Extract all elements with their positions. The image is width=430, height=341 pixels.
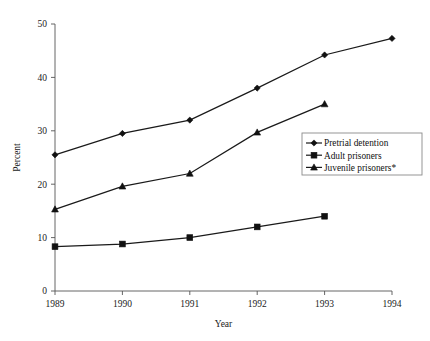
- marker-square: [52, 244, 58, 250]
- marker-square: [311, 152, 317, 158]
- y-tick-label: 30: [38, 126, 48, 136]
- y-axis-title: Percent: [12, 143, 22, 172]
- x-tick-label: 1993: [315, 299, 334, 309]
- x-tick-label: 1989: [46, 299, 65, 309]
- marker-square: [187, 235, 193, 241]
- series-line: [55, 216, 325, 246]
- y-tick-label: 20: [38, 180, 48, 190]
- chart-canvas: 01020304050198919901991199219931994Perce…: [0, 0, 430, 341]
- y-tick-label: 40: [38, 73, 48, 83]
- y-tick-label: 0: [42, 286, 47, 296]
- marker-square: [254, 224, 260, 230]
- marker-diamond: [254, 85, 260, 91]
- x-tick-label: 1991: [180, 299, 199, 309]
- legend[interactable]: Pretrial detentionAdult prisonersJuvenil…: [302, 133, 422, 175]
- legend-label: Adult prisoners: [324, 151, 382, 161]
- line-chart: 01020304050198919901991199219931994Perce…: [0, 0, 430, 341]
- marker-square: [120, 241, 126, 247]
- y-tick-label: 10: [38, 233, 48, 243]
- x-tick-label: 1994: [383, 299, 402, 309]
- x-tick-label: 1992: [248, 299, 267, 309]
- marker-diamond: [119, 130, 125, 136]
- x-tick-label: 1990: [113, 299, 132, 309]
- marker-diamond: [187, 117, 193, 123]
- x-axis-title: Year: [215, 319, 233, 329]
- series-adult-prisoners: [52, 213, 327, 249]
- marker-triangle: [186, 170, 193, 176]
- marker-diamond: [322, 52, 328, 58]
- marker-square: [322, 213, 328, 219]
- legend-label: Pretrial detention: [324, 138, 389, 148]
- marker-triangle: [321, 101, 328, 107]
- y-tick-label: 50: [38, 19, 48, 29]
- legend-label: Juvenile prisoners*: [324, 163, 396, 173]
- marker-diamond: [52, 152, 58, 158]
- marker-diamond: [389, 35, 395, 41]
